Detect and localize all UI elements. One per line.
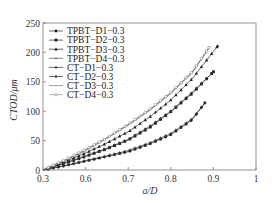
triangle-marker-icon <box>159 106 162 109</box>
open-circle-marker-icon <box>47 166 50 169</box>
open-circle-marker-icon <box>83 149 86 152</box>
ctod-vs-a-d-chart: 050100150200250 0.30.60.70.80.91 TPBT−D1… <box>0 0 274 203</box>
legend-label: CT−D4−0.3 <box>67 90 114 100</box>
open-circle-marker-icon <box>93 143 96 146</box>
open-circle-marker-icon <box>159 99 162 102</box>
x-tick-label: 0.8 <box>165 174 177 184</box>
open-circle-marker-icon <box>190 71 193 74</box>
open-circle-marker-icon <box>170 91 173 94</box>
series-line <box>43 103 205 170</box>
triangle-marker-icon <box>154 110 157 113</box>
triangle-marker-icon <box>164 102 167 105</box>
triangle-marker-icon <box>139 122 142 125</box>
y-tick-label: 50 <box>31 136 41 146</box>
diamond-marker-icon <box>55 75 58 78</box>
x-axis-title: a/D <box>143 185 159 196</box>
open-circle-marker-icon <box>123 125 126 128</box>
open-circle-marker-icon <box>57 162 60 165</box>
open-circle-marker-icon <box>200 57 203 60</box>
star-marker-icon <box>67 163 70 166</box>
open-circle-marker-icon <box>149 107 152 110</box>
open-circle-marker-icon <box>118 128 121 131</box>
open-circle-marker-icon <box>154 103 157 106</box>
legend: TPBT−D1−0.3TPBT−D2−0.3TPBT−D3−0.3TPBT−D4… <box>49 26 125 100</box>
open-circle-marker-icon <box>175 86 178 89</box>
x-axis: 0.30.60.70.80.91 <box>37 167 259 184</box>
open-circle-marker-icon <box>195 64 198 67</box>
open-circle-marker-icon <box>185 76 188 79</box>
triangle-marker-icon <box>133 125 136 128</box>
open-circle-marker-icon <box>62 159 65 162</box>
triangle-marker-icon <box>149 114 152 117</box>
series-line <box>43 103 205 170</box>
x-tick-label: 0.3 <box>37 174 49 184</box>
open-circle-marker-icon <box>205 50 208 53</box>
open-circle-marker-icon <box>164 95 167 98</box>
open-circle-marker-icon <box>55 93 58 96</box>
open-circle-marker-icon <box>72 154 75 157</box>
open-circle-marker-icon <box>52 164 55 167</box>
y-tick-label: 250 <box>26 19 41 29</box>
y-tick-label: 200 <box>26 48 41 58</box>
open-circle-marker-icon <box>144 111 147 114</box>
open-circle-marker-icon <box>208 46 211 49</box>
open-circle-marker-icon <box>129 122 132 125</box>
open-circle-marker-icon <box>108 135 111 138</box>
open-circle-marker-icon <box>88 146 91 149</box>
x-tick-label: 0.6 <box>80 174 92 184</box>
circle-marker-icon <box>55 30 58 33</box>
open-circle-marker-icon <box>98 141 101 144</box>
open-circle-marker-icon <box>139 115 142 118</box>
x-tick-label: 1 <box>254 174 259 184</box>
open-circle-marker-icon <box>67 157 70 160</box>
triangle-marker-icon <box>144 118 147 121</box>
triangle-marker-icon <box>216 44 219 47</box>
x-tick-label: 0.9 <box>207 174 219 184</box>
star-marker-icon <box>55 66 58 69</box>
square-marker-icon <box>55 39 58 42</box>
y-tick-label: 150 <box>26 77 41 87</box>
legend-item: CT−D4−0.3 <box>49 90 114 100</box>
open-circle-marker-icon <box>134 118 137 121</box>
x-tick-label: 0.7 <box>122 174 134 184</box>
y-axis-title: CTOD/μm <box>8 79 19 121</box>
open-circle-marker-icon <box>180 81 183 84</box>
open-circle-marker-icon <box>77 152 80 155</box>
y-tick-label: 100 <box>26 107 41 117</box>
triangle-marker-icon <box>128 129 131 132</box>
open-circle-marker-icon <box>113 131 116 134</box>
open-circle-marker-icon <box>103 138 106 141</box>
